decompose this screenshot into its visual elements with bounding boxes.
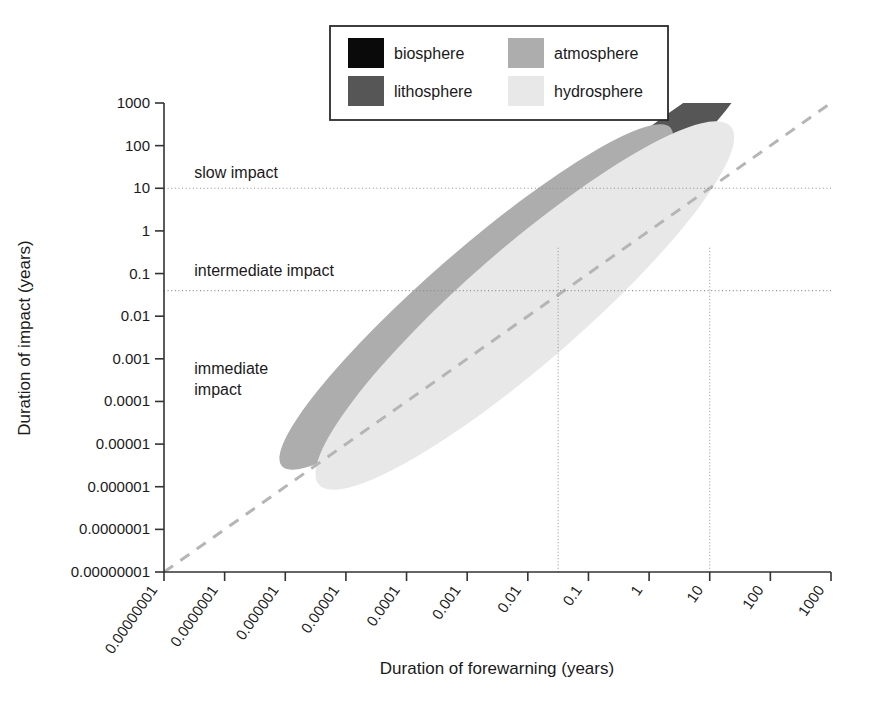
legend-label-lithosphere: lithosphere — [394, 83, 472, 100]
legend-swatch-lithosphere — [348, 76, 384, 106]
y-tick-label: 100 — [125, 137, 150, 154]
legend-swatch-biosphere — [348, 38, 384, 68]
y-tick-label: 0.01 — [121, 307, 150, 324]
y-tick-label: 0.001 — [112, 350, 150, 367]
y-axis-title: Duration of impact (years) — [15, 240, 34, 436]
legend: biospherelithosphereatmospherehydrospher… — [330, 26, 668, 120]
legend-swatch-hydrosphere — [508, 76, 544, 106]
legend-label-hydrosphere: hydrosphere — [554, 83, 643, 100]
annotation-intermediate-impact: intermediate impact — [194, 262, 334, 279]
legend-label-biosphere: biosphere — [394, 45, 464, 62]
y-tick-label: 0.000001 — [87, 478, 150, 495]
y-tick-label: 10 — [133, 179, 150, 196]
annotation-immediate-impact-line1: immediate — [194, 360, 268, 377]
y-tick-label: 0.00001 — [96, 435, 150, 452]
y-tick-label: 0.00000001 — [71, 563, 150, 580]
y-tick-label: 0.0001 — [104, 392, 150, 409]
y-tick-label: 0.0000001 — [79, 520, 150, 537]
y-tick-label: 0.1 — [129, 265, 150, 282]
impact-forewarning-scatter: 0.000000010.00000010.0000010.000010.0001… — [0, 0, 883, 709]
y-tick-label: 1 — [142, 222, 150, 239]
chart-figure: 0.000000010.00000010.0000010.000010.0001… — [0, 0, 883, 709]
annotation-slow-impact: slow impact — [194, 164, 278, 181]
legend-label-atmosphere: atmosphere — [554, 45, 639, 62]
y-tick-label: 1000 — [117, 94, 150, 111]
x-axis-title: Duration of forewarning (years) — [380, 659, 614, 678]
legend-swatch-atmosphere — [508, 38, 544, 68]
annotation-immediate-impact-line2: impact — [194, 381, 242, 398]
